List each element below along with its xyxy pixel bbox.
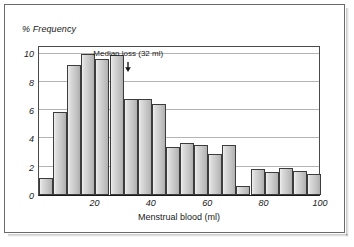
histogram-bar (194, 145, 208, 195)
median-arrow-icon (125, 58, 132, 68)
y-tick-label: 6 (10, 106, 34, 116)
histogram-bar (95, 59, 109, 195)
histogram-bar (67, 65, 81, 195)
y-tick-label: 2 (10, 163, 34, 173)
frame-shadow-right (346, 8, 349, 236)
histogram-bars (39, 47, 319, 195)
x-tick-label: 20 (89, 198, 99, 208)
y-axis-tick-labels: 0246810 (8, 46, 34, 196)
histogram-bar (222, 145, 236, 195)
histogram-bar (166, 147, 180, 195)
histogram-bar (81, 54, 95, 196)
histogram-bar (208, 154, 222, 195)
figure-root: % Frequency 0246810 Median loss (32 ml) … (0, 0, 354, 247)
histogram-bar (279, 168, 293, 195)
x-tick-label: 60 (202, 198, 212, 208)
histogram-bar (180, 143, 194, 195)
histogram-bar (307, 174, 321, 195)
y-tick-label: 10 (10, 49, 34, 59)
frame-shadow-bottom (8, 234, 348, 237)
histogram-bar (39, 178, 53, 195)
histogram-bar (251, 169, 265, 195)
histogram-bar (138, 99, 152, 195)
y-tick-label: 0 (10, 191, 34, 201)
x-axis-title: Menstrual blood (ml) (38, 212, 320, 222)
x-tick-label: 40 (146, 198, 156, 208)
histogram-bar (53, 112, 67, 195)
x-tick-label: 80 (259, 198, 269, 208)
histogram-bar (110, 55, 124, 195)
histogram-bar (265, 172, 279, 195)
plot-area (38, 46, 320, 196)
y-axis-title: % Frequency (22, 24, 76, 34)
x-axis-tick-labels: 20406080100 (38, 198, 320, 212)
y-tick-label: 4 (10, 134, 34, 144)
median-annotation-label: Median loss (32 ml) (93, 49, 163, 58)
x-tick-label: 100 (312, 198, 327, 208)
histogram-bar (236, 186, 250, 195)
histogram-bar (152, 104, 166, 195)
y-tick-label: 8 (10, 78, 34, 88)
histogram-bar (124, 99, 138, 195)
histogram-bar (293, 171, 307, 195)
